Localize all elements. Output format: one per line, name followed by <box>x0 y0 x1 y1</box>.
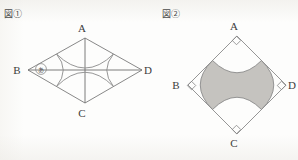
figure-2-panel: 図② A B C D <box>152 0 298 160</box>
figure-1-panel: 図① <box>0 0 152 160</box>
figure-2-vertex-label-b: B <box>172 79 179 91</box>
figure-1-vertex-label-d: D <box>144 64 152 76</box>
shaded-astroid-region <box>200 61 274 110</box>
figure-sheet: 図① <box>0 0 298 160</box>
figure-2-vertex-label-a: A <box>230 20 238 32</box>
figure-2-drawing: A B C D <box>152 0 298 160</box>
right-angle-mark-a <box>232 36 240 44</box>
right-angle-mark-d <box>277 81 285 89</box>
figure-1-drawing: あ A B C D <box>0 0 152 160</box>
right-angle-mark-c <box>232 125 240 133</box>
region-marker-label: あ <box>38 67 44 73</box>
figure-1-vertex-label-c: C <box>78 107 85 119</box>
region-marker-a: あ <box>36 64 47 75</box>
figure-1-vertex-label-b: B <box>13 64 20 76</box>
figure-2-vertex-label-c: C <box>230 137 237 149</box>
figure-1-vertex-label-a: A <box>78 22 86 34</box>
figure-2-vertex-label-d: D <box>288 79 296 91</box>
